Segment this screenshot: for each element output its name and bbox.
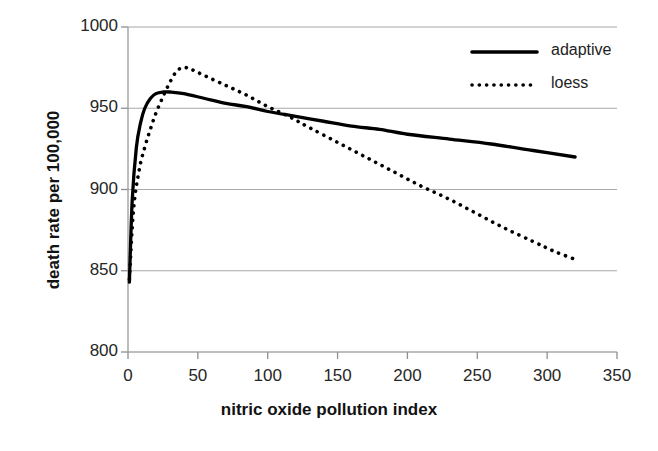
chart-figure: death rate per 100,000 nitric oxide poll… — [0, 0, 658, 451]
x-tick-label: 50 — [168, 366, 228, 386]
series-line-loess — [129, 68, 575, 279]
x-tick-label: 150 — [308, 366, 368, 386]
y-tick-label: 850 — [48, 260, 118, 280]
y-tick-label: 900 — [48, 179, 118, 199]
y-tick-label: 950 — [48, 97, 118, 117]
y-tick-label: 1000 — [48, 16, 118, 36]
x-tick-label: 200 — [377, 366, 437, 386]
x-tick-marks — [128, 352, 617, 359]
gridlines — [128, 27, 617, 352]
y-tick-label: 800 — [48, 341, 118, 361]
legend-label-loess: loess — [551, 74, 588, 92]
x-axis-title: nitric oxide pollution index — [0, 400, 658, 420]
y-tick-marks — [121, 27, 128, 352]
x-tick-label: 250 — [447, 366, 507, 386]
data-series-layer — [129, 68, 575, 283]
y-axis-title: death rate per 100,000 — [44, 50, 64, 350]
legend-label-adaptive: adaptive — [551, 41, 612, 59]
x-tick-label: 350 — [587, 366, 647, 386]
series-line-adaptive — [129, 92, 575, 282]
x-tick-label: 300 — [517, 366, 577, 386]
legend-markers — [472, 52, 537, 85]
x-tick-label: 100 — [238, 366, 298, 386]
x-tick-label: 0 — [98, 366, 158, 386]
